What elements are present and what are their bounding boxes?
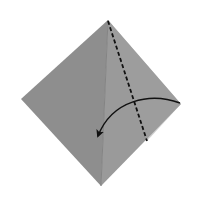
origami-diagram [0,0,204,197]
diagram-svg [0,0,204,197]
paper-left-face [21,20,108,186]
